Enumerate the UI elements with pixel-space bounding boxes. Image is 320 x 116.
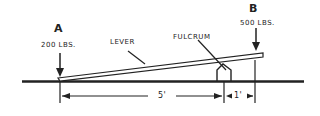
fulcrum-shape	[217, 64, 231, 81]
lever-label: LEVER	[110, 38, 135, 46]
point-b-label: B	[249, 2, 257, 15]
point-a-label: A	[54, 22, 63, 35]
lever-leader	[128, 51, 145, 64]
dimension-short: 1'	[234, 91, 242, 100]
dimension-long: 5'	[158, 91, 166, 100]
fulcrum-leader	[198, 40, 226, 70]
fulcrum-label: FULCRUM	[173, 33, 210, 41]
point-a-load: 200 LBS.	[41, 41, 76, 49]
lever-bar	[58, 53, 263, 81]
point-b-load: 500 LBS.	[240, 19, 275, 27]
